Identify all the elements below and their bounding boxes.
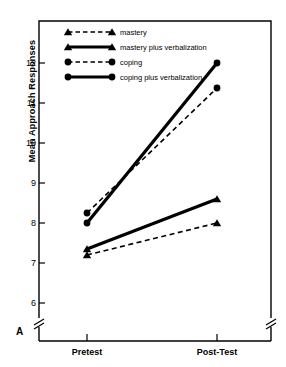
- series-coping: [84, 85, 221, 217]
- data-point-marker: [84, 220, 91, 227]
- data-point-marker: [213, 219, 221, 226]
- plot-area: [0, 0, 286, 367]
- figure-panel-a: Mean Approach Responses A 12 11 10 9 8 7…: [0, 0, 286, 367]
- data-point-marker: [214, 60, 221, 67]
- legend-key-mastery-plus-verbalization: [64, 43, 116, 50]
- x-axis-ticks: [87, 334, 217, 341]
- y-axis-ticks: [39, 63, 45, 303]
- series-coping-plus-verbalization: [84, 60, 221, 227]
- data-point-marker: [84, 210, 91, 217]
- legend-key-coping: [65, 59, 116, 66]
- legend-key-mastery: [64, 28, 116, 35]
- legend-key-coping-plus-verbalization: [65, 74, 116, 81]
- axis-frame: [39, 21, 271, 341]
- data-point-marker: [214, 85, 221, 92]
